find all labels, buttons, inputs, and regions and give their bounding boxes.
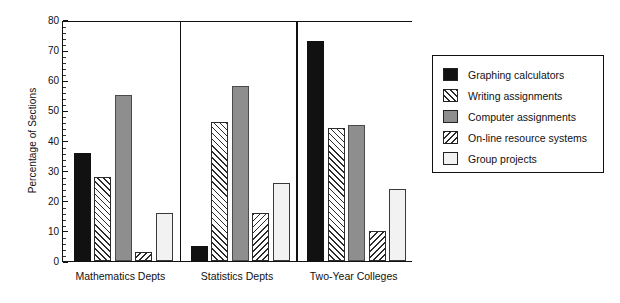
bar xyxy=(389,189,406,261)
legend-item-label: Writing assignments xyxy=(468,90,562,102)
bar xyxy=(252,213,269,261)
y-axis-tick-label: 0 xyxy=(37,257,59,267)
bar xyxy=(273,183,290,261)
y-axis-minor-tick xyxy=(63,93,66,94)
legend-swatch-icon xyxy=(443,89,458,102)
y-axis-minor-tick xyxy=(63,220,66,221)
y-axis-minor-tick xyxy=(63,123,66,124)
y-axis-minor-tick xyxy=(63,45,66,46)
legend-item: Graphing calculators xyxy=(443,64,603,85)
legend-swatch-icon xyxy=(443,110,458,123)
y-axis-minor-tick xyxy=(63,250,66,251)
y-axis-minor-tick xyxy=(63,178,66,179)
y-axis-tick-mark xyxy=(63,231,68,232)
y-axis-minor-tick xyxy=(63,244,66,245)
y-axis-tick-mark xyxy=(63,81,68,82)
y-axis-minor-tick xyxy=(63,160,66,161)
x-axis-category-label: Two-Year Colleges xyxy=(295,270,412,282)
bar xyxy=(328,128,345,261)
y-axis-minor-tick xyxy=(63,75,66,76)
y-axis-minor-tick xyxy=(63,87,66,88)
y-axis-minor-tick xyxy=(63,33,66,34)
y-axis-minor-tick xyxy=(63,39,66,40)
y-axis-minor-tick xyxy=(63,129,66,130)
plot-area: 01020304050607080 xyxy=(62,21,412,262)
legend-item: On-line resource systems xyxy=(443,127,603,148)
y-axis-minor-tick xyxy=(63,214,66,215)
group-separator xyxy=(180,21,181,262)
legend-item-label: Group projects xyxy=(468,153,537,165)
y-axis-minor-tick xyxy=(63,196,66,197)
legend-item: Writing assignments xyxy=(443,85,603,106)
legend-item-label: Graphing calculators xyxy=(468,69,564,81)
y-axis-minor-tick xyxy=(63,148,66,149)
bar xyxy=(94,177,111,261)
bar xyxy=(135,252,152,261)
y-axis-tick-label: 50 xyxy=(37,106,59,116)
y-axis-minor-tick xyxy=(63,99,66,100)
y-axis-minor-tick xyxy=(63,190,66,191)
bar xyxy=(369,231,386,261)
y-axis-tick-mark xyxy=(63,261,68,262)
x-axis-category-label: Statistics Depts xyxy=(179,270,296,282)
legend-item-label: Computer assignments xyxy=(468,111,576,123)
y-axis-tick-label: 20 xyxy=(37,197,59,207)
group-separator xyxy=(296,21,297,262)
y-axis-tick-mark xyxy=(63,51,68,52)
y-axis-minor-tick xyxy=(63,27,66,28)
y-axis-minor-tick xyxy=(63,238,66,239)
bar xyxy=(191,246,208,261)
bar xyxy=(74,153,91,261)
y-axis-minor-tick xyxy=(63,256,66,257)
y-axis-tick-mark xyxy=(63,141,68,142)
y-axis-minor-tick xyxy=(63,105,66,106)
y-axis-tick-label: 10 xyxy=(37,227,59,237)
bar xyxy=(307,41,324,261)
y-axis-tick-mark xyxy=(63,20,68,21)
y-axis-minor-tick xyxy=(63,166,66,167)
bar xyxy=(115,95,132,261)
y-axis-tick-mark xyxy=(63,201,68,202)
y-axis-minor-tick xyxy=(63,135,66,136)
y-axis-minor-tick xyxy=(63,154,66,155)
y-axis-minor-tick xyxy=(63,57,66,58)
legend-item: Group projects xyxy=(443,148,603,169)
legend-swatch-icon xyxy=(443,68,458,81)
bar xyxy=(211,122,228,261)
bar xyxy=(232,86,249,261)
y-axis-minor-tick xyxy=(63,226,66,227)
legend-swatch-icon xyxy=(443,152,458,165)
y-axis-tick-label: 70 xyxy=(37,46,59,56)
chart-legend: Graphing calculatorsWriting assignmentsC… xyxy=(432,55,604,173)
y-axis-tick-mark xyxy=(63,111,68,112)
legend-item: Computer assignments xyxy=(443,106,603,127)
y-axis-minor-tick xyxy=(63,63,66,64)
y-axis-minor-tick xyxy=(63,117,66,118)
legend-swatch-icon xyxy=(443,131,458,144)
y-axis-minor-tick xyxy=(63,208,66,209)
legend-item-label: On-line resource systems xyxy=(468,132,587,144)
bar-chart: Percentage of Sections 01020304050607080… xyxy=(0,0,620,303)
y-axis-tick-label: 30 xyxy=(37,167,59,177)
bar xyxy=(348,125,365,261)
y-axis-minor-tick xyxy=(63,184,66,185)
y-axis-minor-tick xyxy=(63,69,66,70)
y-axis-tick-label: 80 xyxy=(37,16,59,26)
y-axis-tick-label: 60 xyxy=(37,76,59,86)
bar xyxy=(156,213,173,261)
y-axis-title: Percentage of Sections xyxy=(27,46,38,236)
x-axis-category-label: Mathematics Depts xyxy=(62,270,179,282)
y-axis-tick-mark xyxy=(63,171,68,172)
y-axis-tick-label: 40 xyxy=(37,137,59,147)
